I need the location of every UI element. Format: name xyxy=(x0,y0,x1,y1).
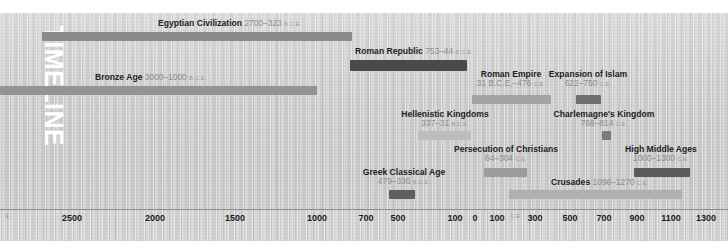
event-bar-roman-empire xyxy=(472,95,551,104)
event-bar-egyptian-civilization xyxy=(42,32,352,41)
event-label-egyptian-civilization: Egyptian Civilization 2700–323 B.C.E. xyxy=(158,19,301,28)
event-bar-bronze-age xyxy=(0,86,317,95)
event-bar-crusades xyxy=(509,190,682,199)
axis-tick-1500: 1500 xyxy=(225,213,245,223)
event-label-bronze-age: Bronze Age 3000–1000 B.C.E. xyxy=(95,73,206,82)
event-date-line: 479–336 B.C.E. xyxy=(378,176,430,186)
timeline-title-text: TIMELINE xyxy=(41,26,66,176)
axis-tick-E: E xyxy=(5,213,9,219)
event-era: C.E. xyxy=(637,180,649,186)
event-era: C.E. xyxy=(677,156,689,162)
event-era: C.E. xyxy=(616,121,628,127)
event-date: 64–304 xyxy=(485,153,515,163)
event-date: 622–750 xyxy=(565,78,600,88)
axis-tick-CE: C.E. xyxy=(511,213,522,219)
event-label-greek-classical-age: Greek Classical Age479–336 B.C.E. xyxy=(363,168,445,186)
event-date: 31 B.C.E.–476 xyxy=(477,78,534,88)
axis-tick-100: 100 xyxy=(489,213,504,223)
event-era: B.C.E. xyxy=(455,49,472,55)
event-date: 1096–1270 xyxy=(593,177,637,187)
axis-tick-300: 300 xyxy=(527,213,542,223)
event-name: Bronze Age xyxy=(95,72,142,82)
event-date-line: 622–750 C.E. xyxy=(565,78,612,88)
event-name: Roman Republic xyxy=(355,46,423,56)
event-bar-persecution-of-christians xyxy=(484,168,527,177)
event-label-persecution-of-christians: Persecution of Christians64–304 C.E. xyxy=(454,145,558,163)
event-label-roman-empire: Roman Empire31 B.C.E.–476 C.E. xyxy=(477,70,546,88)
event-name: Crusades xyxy=(551,177,590,187)
event-date: 479–336 xyxy=(378,176,413,186)
event-bar-charlemagnes-kingdom xyxy=(602,131,611,140)
axis-tick-1100: 1100 xyxy=(661,213,681,223)
event-date-line: 64–304 C.E. xyxy=(485,153,527,163)
event-date-line: 768–814 C.E. xyxy=(581,118,628,128)
event-bar-greek-classical-age xyxy=(389,190,415,199)
event-label-high-middle-ages: High Middle Ages1000–1300 C.E. xyxy=(625,145,697,163)
event-era: C.E. xyxy=(515,156,527,162)
axis-line xyxy=(0,209,728,210)
event-date: 1000–1300 xyxy=(633,153,677,163)
event-label-roman-republic: Roman Republic 753–44 B.C.E. xyxy=(355,47,473,56)
axis-tick-100: 100 xyxy=(447,213,462,223)
axis-tick-700: 700 xyxy=(596,213,611,223)
event-label-crusades: Crusades 1096–1270 C.E. xyxy=(551,178,649,187)
event-era: B.C.E. xyxy=(189,75,206,81)
event-era: B.C.E. xyxy=(284,21,301,27)
event-era: B.C.E. xyxy=(451,121,468,127)
event-label-hellenistic-kingdoms: Hellenistic Kingdoms337–31 B.C.E. xyxy=(401,110,488,128)
axis-tick-700: 700 xyxy=(358,213,373,223)
event-date-line: 337–31 B.C.E. xyxy=(421,118,469,128)
event-name: Egyptian Civilization xyxy=(158,18,242,28)
event-era: B.C.E. xyxy=(413,179,430,185)
event-era: C.E. xyxy=(600,81,612,87)
event-date: 337–31 xyxy=(421,118,451,128)
event-date: 768–814 xyxy=(581,118,616,128)
event-bar-expansion-of-islam xyxy=(576,95,601,104)
event-bar-high-middle-ages xyxy=(634,168,690,177)
axis-tick-1300: 1300 xyxy=(696,213,716,223)
event-date: 2700–323 xyxy=(244,18,284,28)
axis-tick-500: 500 xyxy=(390,213,405,223)
event-era: C.E. xyxy=(534,81,546,87)
event-bar-roman-republic xyxy=(350,60,467,71)
axis-tick-2500: 2500 xyxy=(62,213,82,223)
event-date: 753–44 xyxy=(425,46,455,56)
axis-tick-1000: 1000 xyxy=(307,213,327,223)
event-date-line: 31 B.C.E.–476 C.E. xyxy=(477,78,546,88)
timeline-infographic: TIMELINE Egyptian Civilization 2700–323 … xyxy=(0,0,728,241)
axis-tick-500: 500 xyxy=(562,213,577,223)
event-bar-hellenistic-kingdoms xyxy=(418,131,471,140)
event-date-line: 1000–1300 C.E. xyxy=(633,153,689,163)
timeline-vertical-title: TIMELINE xyxy=(41,26,65,176)
axis-tick-0: 0 xyxy=(472,213,477,223)
axis-tick-900: 900 xyxy=(629,213,644,223)
event-label-charlemagnes-kingdom: Charlemagne's Kingdom768–814 C.E. xyxy=(554,110,655,128)
axis-tick-2000: 2000 xyxy=(145,213,165,223)
event-label-expansion-of-islam: Expansion of Islam622–750 C.E. xyxy=(549,70,627,88)
event-date: 3000–1000 xyxy=(145,72,189,82)
